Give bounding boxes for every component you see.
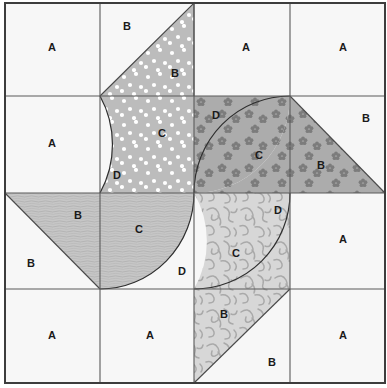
patch-label-b-r4c3-bg: B bbox=[268, 356, 276, 368]
patch-label-a-r4c4: A bbox=[339, 329, 347, 341]
patch-label-a-r4c2: A bbox=[146, 329, 154, 341]
patch-label-b-r3c1-mottled: B bbox=[74, 209, 82, 221]
patch-label-c-r3c3-vine: C bbox=[232, 247, 240, 259]
patch-label-d-r2c3: D bbox=[212, 109, 220, 121]
patch-label-b-r4c3-vine: B bbox=[220, 308, 228, 320]
patch-label-a-r1c1: A bbox=[48, 41, 56, 53]
quilt-block-canvas: ABBAAACDDCBBBBCDCDAAABBA bbox=[0, 0, 387, 388]
patch-label-a-r2c1: A bbox=[48, 137, 56, 149]
patch-label-b-r2c4-floral: B bbox=[317, 159, 325, 171]
patch-label-b-r3c1-bg: B bbox=[27, 257, 35, 269]
patch-label-d-r2c2: D bbox=[113, 169, 121, 181]
patch-label-a-r1c3: A bbox=[242, 41, 250, 53]
patch-label-c-r2c2-dotted: C bbox=[158, 127, 166, 139]
patch-label-d-r3c3: D bbox=[274, 204, 282, 216]
quilt-block-diagram: ABBAAACDDCBBBBCDCDAAABBA bbox=[0, 0, 387, 388]
patch-label-b-r1c2-bg: B bbox=[123, 20, 131, 32]
patch-label-a-r3c4: A bbox=[339, 233, 347, 245]
patch-label-a-r4c1: A bbox=[48, 329, 56, 341]
patch-label-a-r1c4: A bbox=[339, 41, 347, 53]
patch-label-b-r2c4-bg: B bbox=[362, 112, 370, 124]
patch-label-b-r1c2-dotted: B bbox=[171, 67, 179, 79]
patch-label-c-r3c2-mottled: C bbox=[135, 223, 143, 235]
patch-label-c-r2c3-floral: C bbox=[255, 149, 263, 161]
patch-label-d-r3c2: D bbox=[178, 265, 186, 277]
